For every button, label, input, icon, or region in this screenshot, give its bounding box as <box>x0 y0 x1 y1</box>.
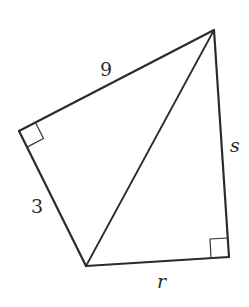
label-s: s <box>230 134 240 156</box>
side-3 <box>19 131 86 266</box>
label-9: 9 <box>100 58 112 80</box>
side-9 <box>19 30 214 131</box>
label-r: r <box>157 270 168 292</box>
label-3: 3 <box>31 195 43 217</box>
right-angle-marker-bottom-right <box>210 238 228 258</box>
geometry-diagram: 9 3 s r <box>0 0 249 307</box>
side-s <box>214 30 229 257</box>
side-r <box>86 257 229 266</box>
